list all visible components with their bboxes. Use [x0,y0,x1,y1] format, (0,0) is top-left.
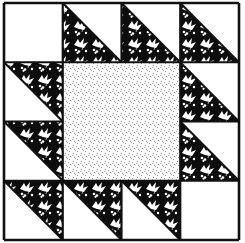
quilt-block [0,0,245,243]
quilt-cell-2-3 [180,122,239,181]
cell-background [4,3,63,62]
quilt-cell-0-2 [122,3,181,62]
cell-background [180,181,239,240]
quilt-cell-2-0 [4,122,63,181]
center-square [63,62,181,181]
quilt-cell-1-0 [4,62,63,121]
quilt-cell-3-1 [63,181,122,240]
quilt-cell-3-3 [180,181,239,240]
quilt-cell-3-2 [122,181,181,240]
quilt-cell-0-1 [63,3,122,62]
quilt-cell-0-0 [4,3,63,62]
quilt-cell-1-3 [180,62,239,121]
quilt-cell-3-0 [4,181,63,240]
quilt-cell-0-3 [180,3,239,62]
